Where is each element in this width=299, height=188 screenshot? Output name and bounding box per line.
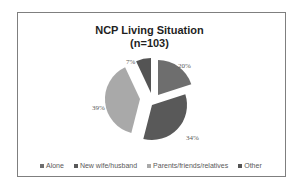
swatch-alone-icon	[40, 164, 44, 168]
swatch-new-spouse-icon	[74, 164, 78, 168]
chart-legend: Alone New wife/husband Parents/friends/r…	[40, 162, 262, 169]
slice-parents	[105, 67, 140, 133]
label-other: 7%	[126, 58, 135, 66]
legend-label-parents: Parents/friends/relatives	[153, 162, 228, 169]
legend-label-new-spouse: New wife/husband	[80, 162, 137, 169]
swatch-other-icon	[238, 164, 242, 168]
legend-item-new-spouse: New wife/husband	[74, 162, 137, 169]
legend-label-other: Other	[244, 162, 262, 169]
label-alone: 20%	[178, 62, 191, 70]
swatch-parents-icon	[147, 164, 151, 168]
slice-other	[136, 58, 151, 93]
legend-item-alone: Alone	[40, 162, 64, 169]
legend-item-parents: Parents/friends/relatives	[147, 162, 228, 169]
pie-chart	[0, 0, 299, 188]
slice-new-spouse	[143, 94, 187, 140]
label-new-spouse: 34%	[186, 134, 199, 142]
legend-label-alone: Alone	[46, 162, 64, 169]
legend-item-other: Other	[238, 162, 262, 169]
label-parents: 39%	[92, 104, 105, 112]
